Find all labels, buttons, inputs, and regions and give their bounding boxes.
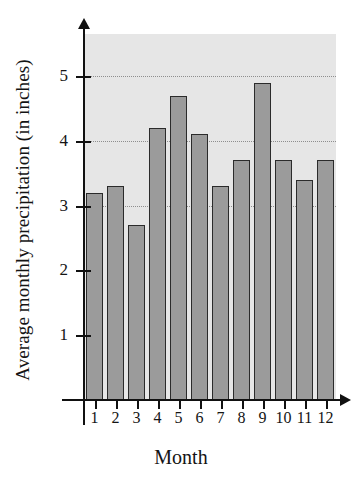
x-tick-10 <box>284 400 286 409</box>
x-axis-arrow-icon <box>340 394 351 406</box>
y-tick-3 <box>76 206 91 208</box>
plot-area <box>84 34 336 400</box>
y-tick-label-5: 5 <box>46 67 68 84</box>
y-tick-label-2: 2 <box>46 261 68 278</box>
y-tick-4 <box>76 141 91 143</box>
y-tick-1 <box>76 335 91 337</box>
x-tick-8 <box>242 400 244 409</box>
bar-month-3 <box>128 225 145 400</box>
bar-month-6 <box>191 134 208 400</box>
bar-month-5 <box>170 96 187 400</box>
x-axis-title: Month <box>0 446 362 469</box>
y-tick-2 <box>76 270 91 272</box>
y-tick-5 <box>76 76 91 78</box>
x-tick-12 <box>326 400 328 409</box>
bar-month-7 <box>212 186 229 400</box>
y-axis-line <box>83 26 85 425</box>
bar-month-9 <box>254 83 271 400</box>
y-tick-label-3: 3 <box>46 197 68 214</box>
y-axis-arrow-icon <box>78 18 90 29</box>
y-tick-label-1: 1 <box>46 326 68 343</box>
x-tick-6 <box>200 400 202 409</box>
x-tick-5 <box>179 400 181 409</box>
bars-group <box>84 34 336 400</box>
x-tick-1 <box>95 400 97 409</box>
x-tick-9 <box>263 400 265 409</box>
precipitation-bar-chart: Average monthly precipitation (in inches… <box>0 0 362 481</box>
bar-month-8 <box>233 160 250 400</box>
x-axis-line <box>62 399 342 401</box>
x-tick-2 <box>116 400 118 409</box>
bar-month-10 <box>275 160 292 400</box>
x-tick-label-12: 12 <box>313 410 339 426</box>
bar-month-12 <box>317 160 334 400</box>
x-tick-11 <box>305 400 307 409</box>
bar-month-4 <box>149 128 166 400</box>
bar-month-1 <box>86 193 103 400</box>
x-tick-4 <box>158 400 160 409</box>
x-tick-7 <box>221 400 223 409</box>
y-axis-title: Average monthly precipitation (in inches… <box>12 59 34 380</box>
bar-month-11 <box>296 180 313 400</box>
y-axis-title-container: Average monthly precipitation (in inches… <box>0 0 46 440</box>
x-tick-3 <box>137 400 139 409</box>
bar-month-2 <box>107 186 124 400</box>
y-tick-label-4: 4 <box>46 132 68 149</box>
